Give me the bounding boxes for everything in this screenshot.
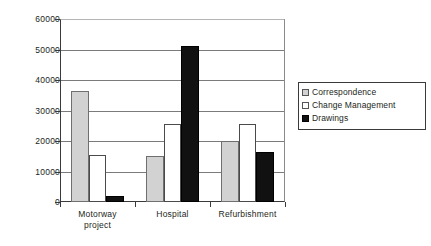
bar-drawings-hospital bbox=[181, 46, 199, 202]
x-axis-category-label: Refurbishment bbox=[210, 209, 285, 220]
y-axis-tick-mark bbox=[55, 50, 60, 51]
y-axis-tick-label: 0 bbox=[8, 198, 60, 207]
y-axis-tick-label: 20000 bbox=[8, 137, 60, 146]
legend-item: Change Management bbox=[302, 99, 421, 112]
y-axis: 0100002000030000400005000060000 bbox=[0, 0, 60, 246]
y-axis-tick-mark bbox=[55, 172, 60, 173]
y-axis-tick-label: 60000 bbox=[8, 15, 60, 24]
y-axis-tick-mark bbox=[55, 19, 60, 20]
bar-change-management-hospital bbox=[164, 124, 182, 202]
bar-drawings-refurbishment bbox=[256, 152, 274, 202]
y-axis-tick-mark bbox=[55, 141, 60, 142]
bar-change-management-refurbishment bbox=[239, 124, 257, 202]
bars-layer bbox=[60, 19, 285, 202]
legend-item-label: Correspondence bbox=[312, 88, 376, 97]
bar-change-management-motorway-project bbox=[89, 155, 107, 202]
y-axis-tick-mark bbox=[55, 111, 60, 112]
bar-drawings-motorway-project bbox=[106, 196, 124, 202]
legend-item: Correspondence bbox=[302, 86, 421, 99]
bar-correspondence-hospital bbox=[146, 156, 164, 202]
y-axis-tick-label: 50000 bbox=[8, 45, 60, 54]
y-axis-tick-mark bbox=[55, 80, 60, 81]
legend-item-label: Change Management bbox=[312, 101, 395, 110]
bar-chart: 0100002000030000400005000060000 Correspo… bbox=[0, 0, 431, 246]
x-axis-category-label: Motorwayproject bbox=[60, 209, 135, 231]
y-axis-tick-label: 10000 bbox=[8, 167, 60, 176]
legend-swatch-icon bbox=[302, 115, 309, 122]
legend-item-label: Drawings bbox=[312, 114, 348, 123]
legend-swatch-icon bbox=[302, 102, 309, 109]
x-axis-tick-mark bbox=[285, 202, 286, 207]
bar-correspondence-refurbishment bbox=[221, 141, 239, 202]
legend-item: Drawings bbox=[302, 112, 421, 125]
y-axis-tick-label: 30000 bbox=[8, 106, 60, 115]
chart-legend: Correspondence Change Management Drawing… bbox=[298, 82, 426, 130]
x-axis-category-label: Hospital bbox=[135, 209, 210, 220]
bar-correspondence-motorway-project bbox=[71, 91, 89, 202]
y-axis-tick-label: 40000 bbox=[8, 76, 60, 85]
legend-swatch-icon bbox=[302, 89, 309, 96]
x-axis-tick-mark bbox=[135, 202, 136, 207]
x-axis-tick-mark bbox=[210, 202, 211, 207]
x-axis-tick-mark bbox=[60, 202, 61, 207]
